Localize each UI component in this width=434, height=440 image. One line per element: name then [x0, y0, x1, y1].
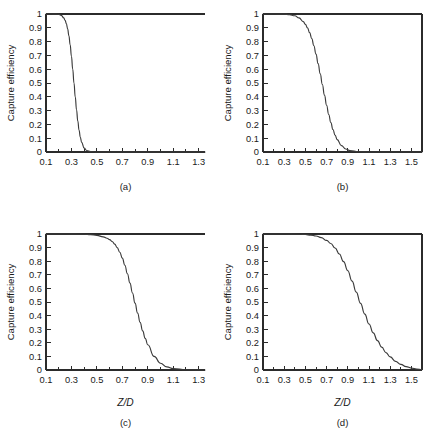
y-tick-label: 0.4: [29, 311, 42, 321]
y-tick-label: 0.7: [29, 270, 42, 280]
y-tick-label: 0.8: [29, 257, 42, 267]
y-tick-label: 0.6: [246, 284, 259, 294]
y-tick-label: 0.6: [246, 65, 259, 75]
y-tick-label: 0: [254, 365, 259, 375]
x-tick-label: 0.7: [320, 157, 333, 167]
x-axis-title: Z/D: [116, 397, 134, 408]
axis-frame-b: [263, 14, 422, 152]
y-tick-label: 0: [37, 147, 42, 157]
y-tick-label: 0.2: [246, 338, 259, 348]
plot-a: 0.10.30.50.70.91.11.300.10.20.30.40.50.6…: [0, 0, 217, 220]
panel-caption-c: (c): [120, 417, 131, 428]
x-tick-label: 0.9: [141, 157, 154, 167]
y-tick-label: 0.3: [29, 106, 42, 116]
y-tick-label: 0.7: [246, 270, 259, 280]
curve-a: [46, 14, 205, 152]
x-axis-title: Z/D: [333, 397, 351, 408]
y-tick-label: 0.1: [246, 134, 259, 144]
plot-c: 0.10.30.50.70.91.11.300.10.20.30.40.50.6…: [0, 220, 217, 440]
y-tick-label: 1: [254, 9, 259, 19]
y-axis-b: 00.10.20.30.40.50.60.70.80.91: [246, 9, 267, 157]
y-tick-label: 0.9: [29, 23, 42, 33]
y-tick-label: 0.8: [246, 37, 259, 47]
x-tick-label: 1.5: [405, 157, 418, 167]
y-tick-label: 0.9: [246, 243, 259, 253]
x-tick-label: 0.3: [65, 375, 78, 385]
y-axis-a: 00.10.20.30.40.50.60.70.80.91: [29, 9, 50, 157]
x-tick-label: 0.1: [257, 375, 270, 385]
x-tick-label: 0.1: [257, 157, 270, 167]
x-tick-label: 1.3: [192, 157, 205, 167]
y-tick-label: 0.4: [246, 92, 259, 102]
y-tick-label: 0: [37, 365, 42, 375]
x-tick-label: 0.9: [341, 375, 354, 385]
y-tick-label: 0.8: [29, 37, 42, 47]
curve-c: [46, 234, 205, 370]
figure-capture-efficiency: 0.10.30.50.70.91.11.300.10.20.30.40.50.6…: [0, 0, 434, 440]
x-tick-label: 0.9: [141, 375, 154, 385]
panel-caption-a: (a): [120, 181, 132, 192]
x-tick-label: 0.7: [116, 157, 129, 167]
y-tick-label: 0.1: [29, 134, 42, 144]
x-tick-label: 0.5: [299, 157, 312, 167]
y-tick-label: 0.8: [246, 257, 259, 267]
y-axis-title: Capture efficiency: [222, 44, 233, 121]
plot-d: 0.10.30.50.70.91.11.31.500.10.20.30.40.5…: [217, 220, 434, 440]
x-tick-label: 1.3: [384, 157, 397, 167]
y-tick-label: 0.9: [246, 23, 259, 33]
x-tick-label: 0.1: [40, 375, 53, 385]
axis-frame-a: [46, 14, 205, 152]
y-tick-label: 0.4: [29, 92, 42, 102]
x-tick-label: 1.1: [167, 157, 180, 167]
y-tick-label: 0.3: [29, 325, 42, 335]
x-axis-a: 0.10.30.50.70.91.11.3: [40, 148, 206, 168]
y-tick-label: 0.3: [246, 106, 259, 116]
x-tick-label: 1.1: [363, 157, 376, 167]
x-tick-label: 1.1: [167, 375, 180, 385]
y-tick-label: 0.5: [246, 78, 259, 88]
panel-caption-d: (d): [337, 417, 349, 428]
y-tick-label: 0.4: [246, 311, 259, 321]
x-axis-c: 0.10.30.50.70.91.11.3: [40, 366, 206, 386]
x-tick-label: 1.3: [192, 375, 205, 385]
y-tick-label: 0.5: [246, 297, 259, 307]
y-tick-label: 0.1: [246, 352, 259, 362]
x-tick-label: 0.5: [90, 375, 103, 385]
panel-d: 0.10.30.50.70.91.11.31.500.10.20.30.40.5…: [217, 220, 434, 440]
x-tick-label: 0.1: [40, 157, 53, 167]
y-tick-label: 0.6: [29, 65, 42, 75]
panel-b: 0.10.30.50.70.91.11.31.500.10.20.30.40.5…: [217, 0, 434, 220]
x-tick-label: 0.7: [116, 375, 129, 385]
x-tick-label: 0.7: [320, 375, 333, 385]
y-axis-d: 00.10.20.30.40.50.60.70.80.91: [246, 229, 267, 375]
y-tick-label: 0: [254, 147, 259, 157]
x-tick-label: 0.9: [341, 157, 354, 167]
y-tick-label: 0.2: [246, 120, 259, 130]
plot-b: 0.10.30.50.70.91.11.31.500.10.20.30.40.5…: [217, 0, 434, 220]
y-tick-label: 0.5: [29, 78, 42, 88]
x-tick-label: 1.5: [405, 375, 418, 385]
x-axis-d: 0.10.30.50.70.91.11.31.5: [257, 366, 418, 386]
y-tick-label: 0.3: [246, 325, 259, 335]
x-tick-label: 0.3: [278, 375, 291, 385]
x-tick-label: 0.3: [65, 157, 78, 167]
y-tick-label: 0.7: [29, 51, 42, 61]
x-tick-label: 0.5: [90, 157, 103, 167]
panel-caption-b: (b): [337, 181, 349, 192]
y-axis-title: Capture efficiency: [5, 44, 16, 121]
y-tick-label: 0.5: [29, 297, 42, 307]
panel-a: 0.10.30.50.70.91.11.300.10.20.30.40.50.6…: [0, 0, 217, 220]
x-axis-b: 0.10.30.50.70.91.11.31.5: [257, 148, 418, 168]
y-tick-label: 0.7: [246, 51, 259, 61]
curve-d: [263, 234, 422, 370]
axis-frame-d: [263, 234, 422, 370]
y-tick-label: 0.2: [29, 120, 42, 130]
y-axis-title: Capture efficiency: [222, 263, 233, 340]
y-tick-label: 1: [254, 229, 259, 239]
x-tick-label: 1.3: [384, 375, 397, 385]
x-tick-label: 0.5: [299, 375, 312, 385]
panel-c: 0.10.30.50.70.91.11.300.10.20.30.40.50.6…: [0, 220, 217, 440]
y-tick-label: 0.9: [29, 243, 42, 253]
curve-b: [263, 14, 422, 152]
y-tick-label: 1: [37, 9, 42, 19]
